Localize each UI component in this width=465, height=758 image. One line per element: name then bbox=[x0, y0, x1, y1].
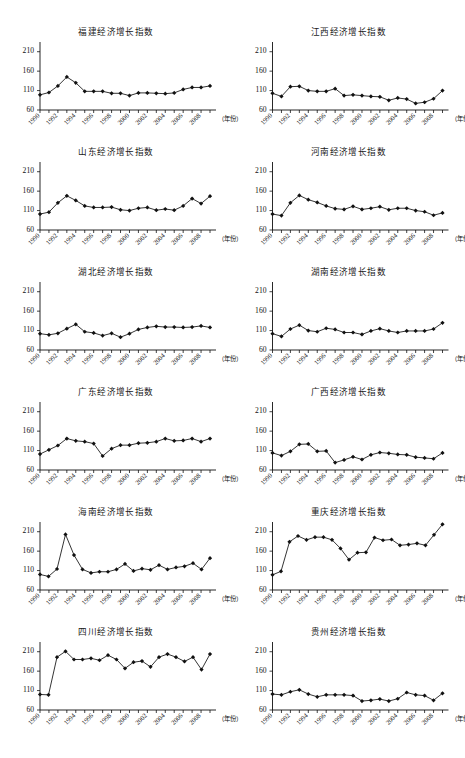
data-point-marker bbox=[92, 89, 96, 93]
x-tick-label: 1996 bbox=[80, 111, 95, 126]
x-tick-label: 1992 bbox=[277, 592, 291, 606]
data-point-marker bbox=[174, 565, 178, 569]
x-axis-caption: （年份） bbox=[451, 474, 465, 483]
x-axis-caption: （年份） bbox=[451, 234, 465, 243]
x-tick-label: 2008 bbox=[187, 351, 202, 366]
x-tick-label: 1992 bbox=[277, 112, 291, 126]
x-tick-label: 1994 bbox=[295, 351, 310, 366]
y-tick-label: 60 bbox=[259, 225, 267, 234]
data-point-marker bbox=[136, 206, 140, 210]
data-point-marker bbox=[304, 538, 308, 542]
data-point-marker bbox=[97, 658, 101, 662]
y-tick-label: 210 bbox=[255, 46, 267, 55]
data-point-marker bbox=[360, 457, 364, 461]
plot-area: 6011016021019901992199419961998200020022… bbox=[232, 276, 465, 380]
y-tick-label: 210 bbox=[23, 526, 35, 535]
series-line bbox=[40, 651, 210, 695]
data-point-marker bbox=[199, 324, 203, 328]
data-point-marker bbox=[306, 692, 310, 696]
plot-area: 6011016021019901992199419961998200020022… bbox=[232, 516, 465, 620]
chart-panel: 湖南经济增长指数60110160210199019921994199619982… bbox=[232, 260, 465, 380]
data-point-marker bbox=[114, 567, 118, 571]
x-tick-label: 1994 bbox=[62, 591, 77, 606]
data-point-marker bbox=[324, 204, 328, 208]
x-tick-label: 1992 bbox=[44, 712, 58, 726]
y-tick-label: 110 bbox=[23, 325, 34, 334]
x-tick-label: 2008 bbox=[420, 591, 435, 606]
data-point-marker bbox=[351, 694, 355, 698]
plot-area: 6011016021019901992199419961998200020022… bbox=[232, 636, 465, 740]
data-point-marker bbox=[360, 94, 364, 98]
data-point-marker bbox=[165, 567, 169, 571]
x-tick-label: 1992 bbox=[44, 592, 58, 606]
series-line bbox=[273, 444, 443, 463]
x-tick-label: 1996 bbox=[80, 231, 95, 246]
data-point-marker bbox=[369, 206, 373, 210]
x-tick-label: 2002 bbox=[366, 712, 380, 726]
data-point-marker bbox=[38, 692, 42, 696]
chart-panel: 贵州经济增长指数60110160210199019921994199619982… bbox=[232, 620, 465, 740]
x-axis-caption: （年份） bbox=[451, 354, 465, 363]
data-point-marker bbox=[181, 438, 185, 442]
x-tick-label: 2004 bbox=[384, 711, 399, 726]
y-tick-label: 160 bbox=[23, 546, 35, 555]
x-tick-label: 2004 bbox=[152, 111, 167, 126]
y-tick-label: 110 bbox=[255, 325, 266, 334]
y-tick-label: 160 bbox=[255, 186, 267, 195]
y-tick-label: 60 bbox=[26, 225, 34, 234]
data-point-marker bbox=[89, 656, 93, 660]
data-point-marker bbox=[369, 453, 373, 457]
x-tick-label: 2008 bbox=[420, 711, 435, 726]
chart-grid: 福建经济增长指数60110160210199019921994199619982… bbox=[0, 0, 465, 740]
y-tick-label: 110 bbox=[23, 85, 34, 94]
x-tick-label: 1994 bbox=[295, 471, 310, 486]
y-tick-label: 210 bbox=[23, 166, 35, 175]
x-tick-label: 1992 bbox=[44, 112, 58, 126]
x-tick-label: 1998 bbox=[331, 471, 346, 486]
data-point-marker bbox=[406, 542, 410, 546]
x-tick-label: 2008 bbox=[420, 351, 435, 366]
y-tick-label: 110 bbox=[255, 445, 266, 454]
x-tick-label: 2002 bbox=[134, 232, 148, 246]
data-point-marker bbox=[172, 91, 176, 95]
x-tick-label: 2008 bbox=[187, 711, 202, 726]
data-point-marker bbox=[165, 652, 169, 656]
data-point-marker bbox=[46, 693, 50, 697]
data-point-marker bbox=[414, 455, 418, 459]
x-tick-label: 2004 bbox=[384, 471, 399, 486]
data-point-marker bbox=[83, 204, 87, 208]
y-tick-label: 60 bbox=[259, 585, 267, 594]
y-tick-label: 160 bbox=[255, 66, 267, 75]
data-point-marker bbox=[387, 329, 391, 333]
data-point-marker bbox=[199, 85, 203, 89]
data-point-marker bbox=[136, 327, 140, 331]
data-point-marker bbox=[145, 91, 149, 95]
data-point-marker bbox=[364, 550, 368, 554]
x-tick-label: 1996 bbox=[313, 471, 328, 486]
data-point-marker bbox=[297, 323, 301, 327]
y-tick-label: 60 bbox=[26, 345, 34, 354]
x-tick-label: 2000 bbox=[116, 111, 131, 126]
data-point-marker bbox=[65, 327, 69, 331]
x-tick-label: 2008 bbox=[420, 471, 435, 486]
x-tick-label: 2002 bbox=[134, 112, 148, 126]
data-point-marker bbox=[182, 564, 186, 568]
data-point-marker bbox=[387, 699, 391, 703]
y-tick-label: 60 bbox=[26, 705, 34, 714]
data-point-marker bbox=[136, 91, 140, 95]
data-point-marker bbox=[378, 450, 382, 454]
data-point-marker bbox=[163, 92, 167, 96]
x-tick-label: 2006 bbox=[402, 711, 417, 726]
data-point-marker bbox=[423, 100, 427, 104]
plot-area: 6011016021019901992199419961998200020022… bbox=[0, 36, 232, 140]
y-tick-label: 160 bbox=[23, 666, 35, 675]
x-tick-label: 1996 bbox=[313, 711, 328, 726]
x-tick-label: 2002 bbox=[134, 592, 148, 606]
x-tick-label: 1994 bbox=[62, 111, 77, 126]
data-point-marker bbox=[89, 571, 93, 575]
x-tick-label: 2002 bbox=[134, 712, 148, 726]
data-point-marker bbox=[163, 436, 167, 440]
data-point-marker bbox=[80, 657, 84, 661]
data-point-marker bbox=[101, 334, 105, 338]
data-point-marker bbox=[405, 206, 409, 210]
